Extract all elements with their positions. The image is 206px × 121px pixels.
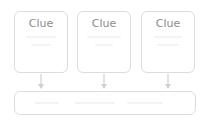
result-box <box>14 91 196 115</box>
clue-box-3: Clue <box>141 11 195 73</box>
faint-text-line <box>87 36 121 38</box>
arrow-down-icon <box>37 74 45 90</box>
faint-text-line <box>75 102 115 104</box>
clue-box-1: Clue <box>14 11 68 73</box>
arrow-down-icon <box>164 74 172 90</box>
clue-box-2: Clue <box>77 11 131 73</box>
faint-text-line <box>26 36 56 38</box>
faint-text-line <box>35 102 59 104</box>
clue-label-2: Clue <box>78 17 130 30</box>
clues-diagram: Clue Clue Clue <box>0 0 206 121</box>
faint-text-line <box>95 44 113 46</box>
faint-text-line <box>31 44 51 46</box>
clue-label-3: Clue <box>142 17 194 30</box>
clue-label-1: Clue <box>15 17 67 30</box>
faint-text-line <box>154 36 182 38</box>
arrow-down-icon <box>100 74 108 90</box>
faint-text-line <box>157 44 179 46</box>
faint-text-line <box>127 102 163 104</box>
